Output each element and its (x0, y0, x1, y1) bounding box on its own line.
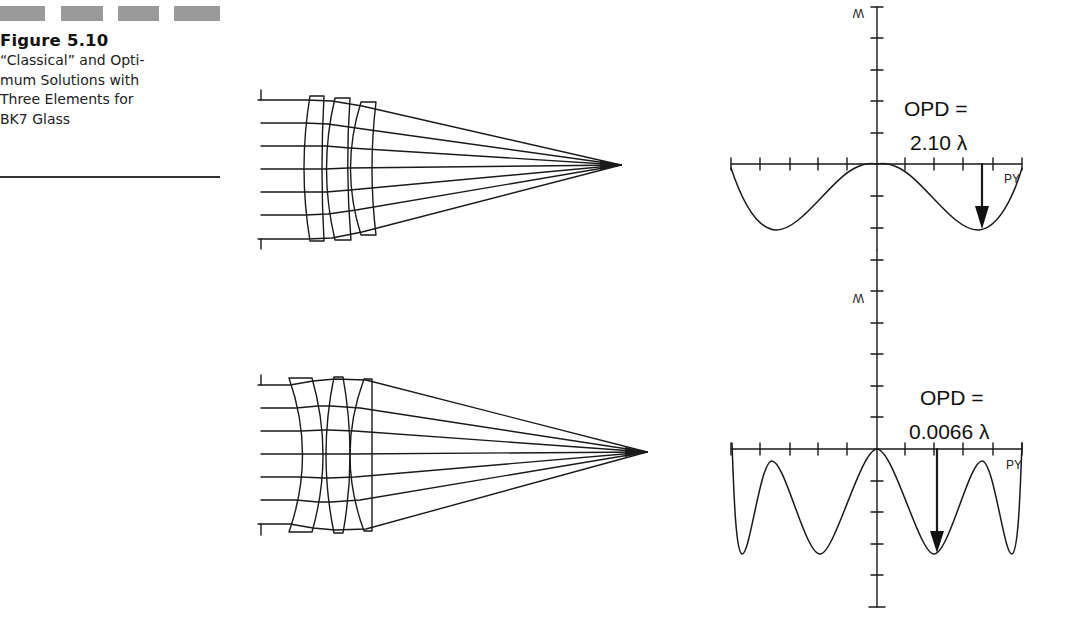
lens-element (350, 379, 372, 531)
ray-bundle (258, 100, 621, 239)
lens-element (326, 377, 350, 533)
x-axis-label: PY (1006, 458, 1022, 472)
classical-lens-diagram (258, 90, 621, 249)
optimum-lens-diagram (258, 375, 647, 535)
arrowhead-icon (930, 531, 944, 553)
opd-value: 2.10 λ (910, 131, 968, 154)
focal-point (600, 160, 621, 170)
figure-canvas: W PY OPD = 2.10 λ W PY OPD = 0.0066 λ (0, 0, 1067, 641)
y-axis-label: W (852, 291, 864, 305)
lens-element (289, 378, 323, 532)
y-axis-label: W (852, 6, 864, 20)
x-axis-label: PY (1004, 172, 1020, 186)
ray-bundle (258, 379, 647, 530)
arrowhead-icon (975, 206, 989, 229)
opd-label: OPD = (904, 97, 968, 120)
opd-label: OPD = (920, 386, 984, 409)
opd-value: 0.0066 λ (909, 420, 990, 443)
